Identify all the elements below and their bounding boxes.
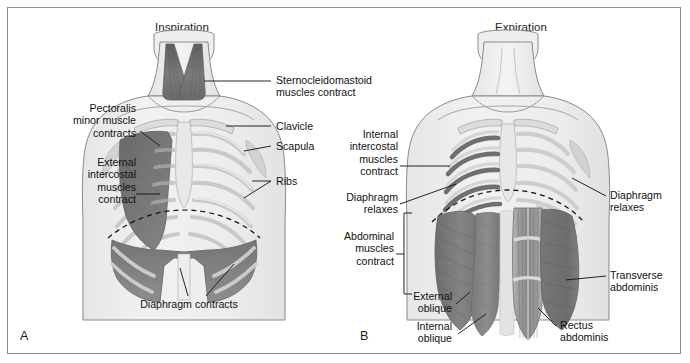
label-diaphragm-contracts: Diaphragm contracts <box>116 298 262 310</box>
label-internal-intercostal: Internal intercostal muscles contract <box>314 128 398 177</box>
figure-frame: Inspiration A <box>7 7 681 354</box>
panel-inspiration: Inspiration A <box>8 8 352 353</box>
label-sternocleidomastoid: Sternocleidomastoid muscles contract <box>276 74 356 99</box>
figure-root: Inspiration A <box>0 0 690 363</box>
aponeurosis-strip <box>500 211 514 336</box>
label-diaphragm-relaxes-left: Diaphragm relaxes <box>314 191 398 216</box>
transverse-abdominis-muscle <box>541 209 579 330</box>
neck-shape <box>472 42 544 96</box>
label-diaphragm-relaxes-right: Diaphragm relaxes <box>610 189 680 214</box>
panel-expiration: Expiration B <box>352 8 682 353</box>
label-pectoralis-minor: Pectoralis minor muscle contracts <box>40 102 136 139</box>
diaphragm-central-gap <box>178 254 190 300</box>
sternum-bone <box>176 122 193 208</box>
label-external-oblique: External oblique <box>348 290 452 315</box>
label-abdominal-muscles: Abdominal muscles contract <box>310 230 394 267</box>
label-transverse-abdominis: Transverse abdominis <box>610 269 680 294</box>
label-rectus-abdominis: Rectus abdominis <box>560 319 630 344</box>
label-external-intercostal: External intercostal muscles contract <box>48 156 136 205</box>
label-internal-oblique: Internal oblique <box>348 320 452 345</box>
